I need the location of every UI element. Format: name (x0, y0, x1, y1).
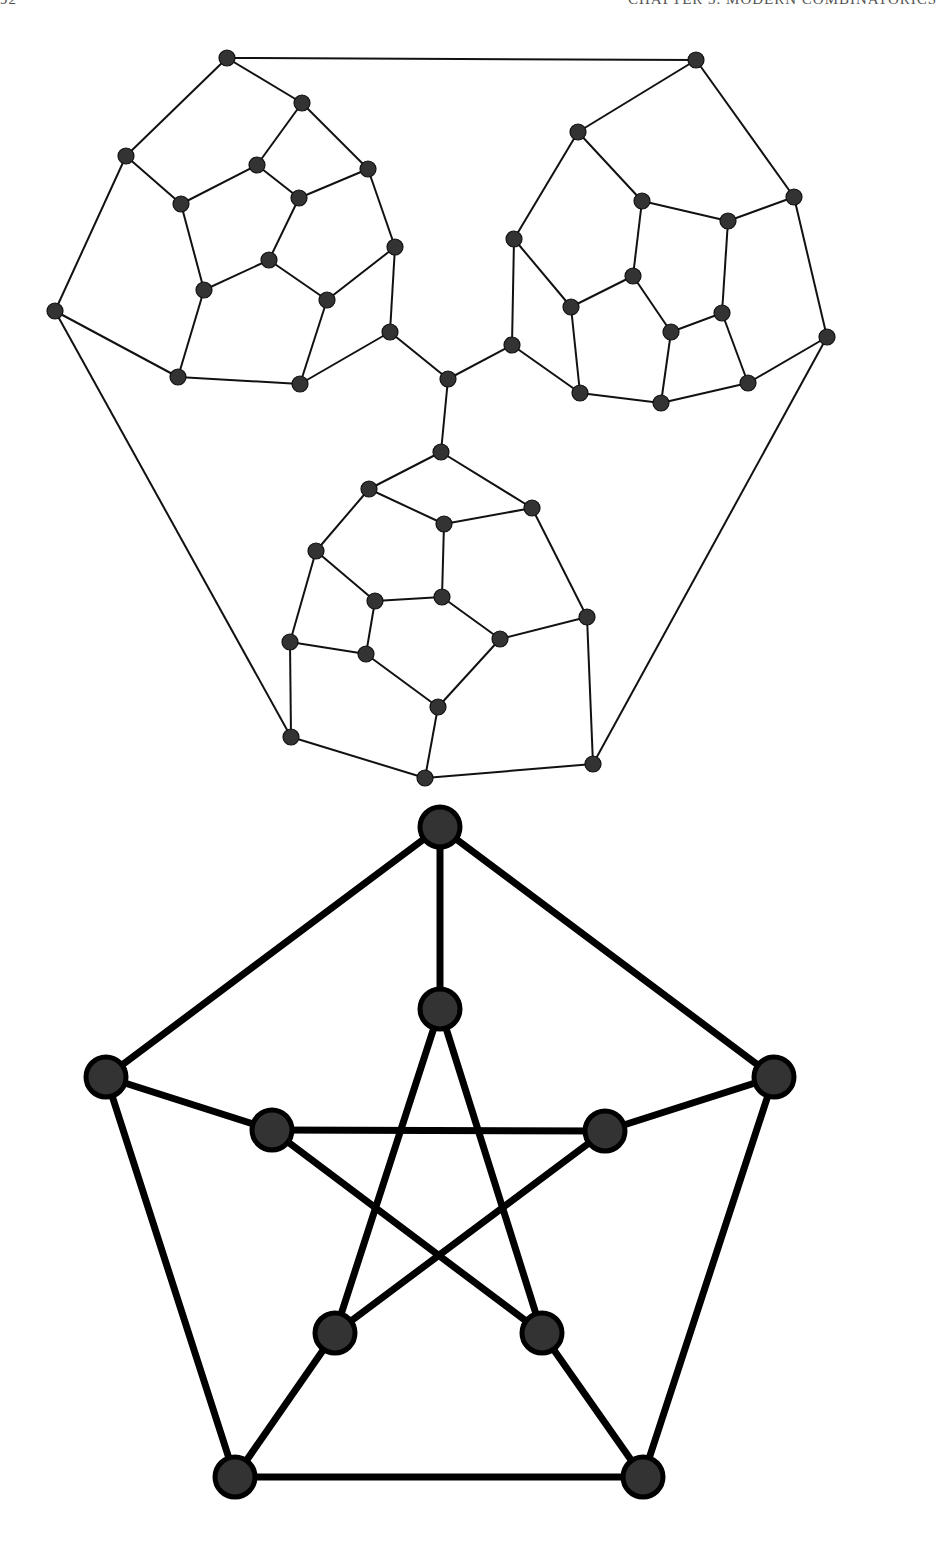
edge-e-g (441, 452, 532, 508)
edge-Q-S (578, 132, 642, 201)
edge-h-k (442, 524, 444, 597)
vertex-b (572, 385, 588, 401)
edge-D-F (181, 165, 257, 204)
edge-i2-i4 (335, 1131, 605, 1333)
edge-K-H (327, 247, 395, 300)
vertex-o4 (215, 1457, 255, 1497)
vertex-O (292, 376, 308, 392)
vertex-e (433, 444, 449, 460)
vertex-o5 (86, 1057, 126, 1097)
edge-a-ctr (448, 345, 512, 379)
vertex-P (688, 52, 704, 68)
edge-X-c (722, 313, 748, 383)
vertex-n (282, 634, 298, 650)
edge-o1-o2 (440, 827, 774, 1077)
vertex-A (219, 50, 235, 66)
cubic-graph-three-clusters (47, 50, 835, 786)
edge-q-r (291, 737, 425, 778)
vertex-S (634, 193, 650, 209)
vertex-c (740, 375, 756, 391)
vertex-l (579, 609, 595, 625)
vertex-L (47, 303, 63, 319)
edge-V-Y (633, 276, 671, 332)
vertex-s (585, 756, 601, 772)
edge-o4-o5 (106, 1077, 235, 1477)
edge-P-R (696, 60, 794, 197)
edge-o-p (366, 654, 438, 707)
edge-s-l (587, 617, 593, 764)
edge-i1-i3 (440, 1009, 542, 1333)
edge-e-f (369, 452, 441, 489)
edge-S-V (633, 201, 642, 276)
vertex-i3 (522, 1313, 562, 1353)
vertex-h (436, 516, 452, 532)
vertex-a (504, 337, 520, 353)
vertex-i5 (252, 1110, 292, 1150)
edge-B-E (302, 103, 368, 169)
edge-a-b (512, 345, 580, 393)
edge-S-T (642, 201, 728, 221)
vertex-f (361, 481, 377, 497)
vertex-B (294, 95, 310, 111)
vertex-W (563, 299, 579, 315)
edge-Q-U (514, 132, 578, 239)
vertex-I (261, 252, 277, 268)
vertex-Y (663, 324, 679, 340)
edge-m-p (438, 639, 500, 707)
edge-V-W (571, 276, 633, 307)
edge-B-D (257, 103, 302, 165)
vertex-D (249, 157, 265, 173)
edge-I-J (204, 260, 269, 290)
edges (106, 827, 774, 1477)
edges (55, 58, 827, 778)
edge-g-l (532, 508, 587, 617)
edge-E-H (368, 169, 395, 247)
vertex-C (118, 148, 134, 164)
vertex-k (434, 589, 450, 605)
edge-I-K (269, 260, 327, 300)
vertex-G (291, 190, 307, 206)
edge-ctr-e (441, 379, 448, 452)
edge-p-r (425, 707, 438, 778)
vertex-R (786, 189, 802, 205)
edge-r-s (425, 764, 593, 778)
edge-P-Q (578, 60, 696, 132)
petersen-graph (86, 807, 794, 1497)
edge-Y-d (661, 332, 671, 403)
edge-o3-i3 (542, 1333, 643, 1477)
vertex-X (714, 305, 730, 321)
vertex-M (382, 324, 398, 340)
edge-A-P (227, 58, 696, 60)
edge-W-b (571, 307, 580, 393)
vertex-H (387, 239, 403, 255)
vertex-m (492, 631, 508, 647)
edge-T-X (722, 221, 728, 313)
edge-U-a (512, 239, 514, 345)
vertex-Q (570, 124, 586, 140)
vertex-r (417, 770, 433, 786)
edge-Z-s (593, 337, 827, 764)
edge-i5-i2 (272, 1130, 605, 1131)
vertex-d (653, 395, 669, 411)
vertex-K (319, 292, 335, 308)
vertex-j (367, 593, 383, 609)
vertex-J (196, 282, 212, 298)
vertex-o1 (420, 807, 460, 847)
edge-M-ctr (390, 332, 448, 379)
edge-o4-i4 (235, 1333, 335, 1477)
vertices (47, 50, 835, 786)
edge-H-M (390, 247, 395, 332)
vertex-V (625, 268, 641, 284)
edge-k-m (442, 597, 500, 639)
edge-C-L (55, 156, 126, 311)
vertex-q (283, 729, 299, 745)
edge-A-C (126, 58, 227, 156)
edge-o5-o1 (106, 827, 440, 1077)
vertex-o (358, 646, 374, 662)
vertex-i (308, 543, 324, 559)
vertex-U (506, 231, 522, 247)
edge-o5-i5 (106, 1077, 272, 1130)
edge-m-l (500, 617, 587, 639)
vertex-F (173, 196, 189, 212)
